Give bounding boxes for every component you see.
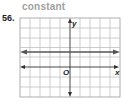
origin-label: O	[63, 68, 70, 77]
x-axis-label: x	[114, 68, 120, 77]
coordinate-graph: y x O	[0, 0, 123, 106]
y-axis-label: y	[71, 19, 77, 28]
